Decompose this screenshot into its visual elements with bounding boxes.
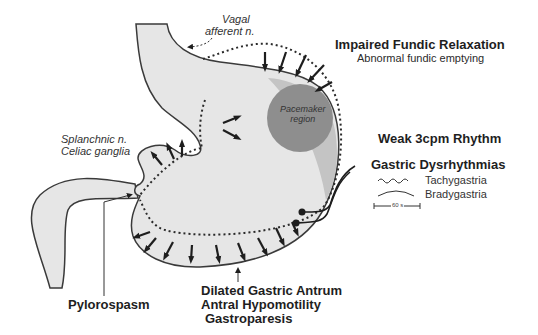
vagal-arrow (190, 38, 212, 47)
scale-bar-label: 60 s (391, 202, 404, 209)
tachygastria-symbol (378, 179, 408, 183)
impaired-fundic-label: Impaired Fundic Relaxation (335, 38, 505, 53)
electrode-1 (299, 209, 306, 216)
pacemaker-label: Pacemaker region (280, 105, 326, 125)
splanchnic-label: Splanchnic n. (61, 133, 127, 146)
pacemaker-line1: Pacemaker (280, 104, 326, 114)
abnormal-fundic-label: Abnormal fundic emptying (357, 52, 484, 65)
weak-rhythm-label: Weak 3cpm Rhythm (378, 132, 501, 147)
gastroparesis-label: Gastroparesis (205, 312, 292, 327)
bradygastria-symbol (378, 191, 414, 196)
pylorospasm-label: Pylorospasm (68, 298, 150, 313)
afferent-label: afferent n. (205, 25, 255, 38)
vagal-label: Vagal (222, 13, 250, 26)
pacemaker-line2: region (290, 114, 315, 124)
celiac-label: Celiac ganglia (61, 145, 130, 158)
legend-tachygastria: Tachygastria (425, 174, 487, 187)
electrode-2 (293, 220, 300, 227)
legend-bradygastria: Bradygastria (425, 188, 487, 201)
dysrhythmias-label: Gastric Dysrhythmias (371, 158, 505, 173)
pylorospasm-pointer (104, 195, 130, 296)
duodenum (31, 179, 138, 288)
